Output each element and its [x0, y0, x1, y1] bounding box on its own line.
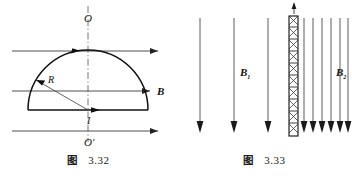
current-sheet-bar — [289, 16, 298, 136]
label-field-b2-sub: 2 — [342, 74, 346, 80]
label-field-b1: B1 — [239, 66, 250, 80]
label-field-b2: B2 — [335, 66, 346, 80]
base-current-arrow — [91, 107, 100, 113]
label-axis-bottom: O' — [84, 136, 95, 148]
figure-3-32-canvas: O O' R I B — [0, 0, 176, 148]
field-lines-b1 — [197, 18, 272, 133]
figure-3-32: O O' R I B 图3.32 — [0, 0, 176, 181]
caption-word: 图 — [67, 154, 78, 166]
field-line-top — [12, 48, 158, 54]
caption-word: 图 — [243, 154, 254, 166]
label-radius: R — [47, 74, 54, 85]
figure-3-33: i B1 B2 图3.33 — [176, 0, 352, 181]
arc-current-arrow — [71, 48, 80, 53]
label-field-b1-base: B — [239, 66, 247, 78]
caption-3-33: 图3.33 — [176, 152, 352, 167]
radius-line — [36, 80, 88, 110]
label-current: I — [86, 115, 91, 126]
figure-page: O O' R I B 图3.32 — [0, 0, 352, 181]
label-axis-top: O — [84, 12, 92, 24]
figure-3-33-canvas: i B1 B2 — [176, 0, 352, 148]
label-current-i: i — [291, 0, 294, 2]
label-field-b1-sub: 1 — [247, 74, 250, 80]
field-line-middle — [12, 88, 150, 94]
label-field-b2-base: B — [335, 66, 343, 78]
caption-number: 3.33 — [264, 154, 285, 166]
current-arrow-i — [292, 2, 297, 14]
field-line-bottom — [12, 128, 158, 134]
label-field-b: B — [156, 85, 164, 97]
caption-number: 3.32 — [88, 154, 109, 166]
caption-3-32: 图3.32 — [0, 152, 176, 167]
